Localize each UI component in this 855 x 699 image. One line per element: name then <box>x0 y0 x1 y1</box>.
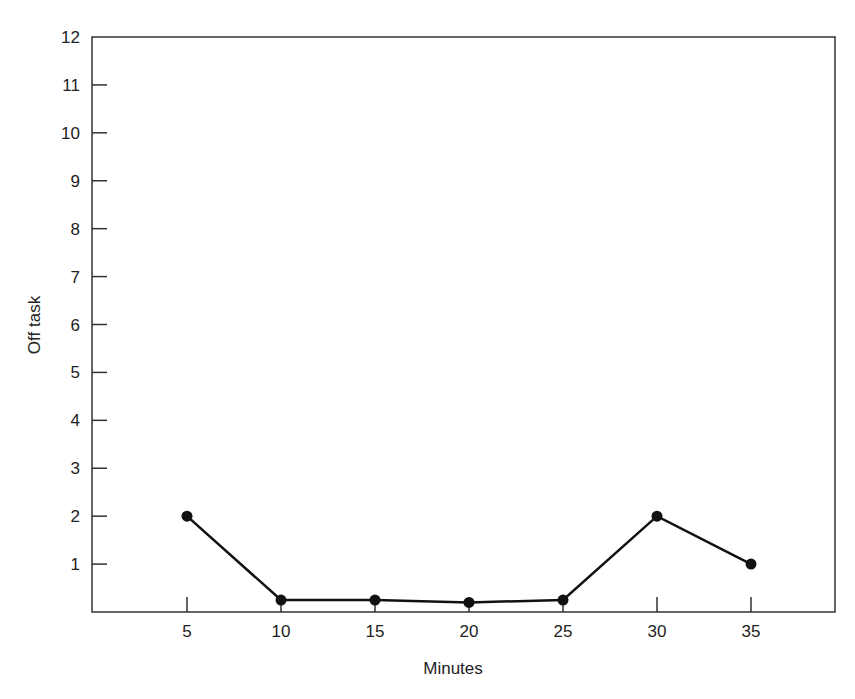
data-series-line <box>187 516 751 602</box>
y-tick-label: 2 <box>71 507 80 526</box>
y-tick-label: 8 <box>71 220 80 239</box>
data-point-marker <box>370 595 381 606</box>
x-tick-label: 35 <box>742 622 761 641</box>
y-axis-ticks: 123456789101112 <box>61 28 107 574</box>
data-point-marker <box>182 511 193 522</box>
x-tick-label: 30 <box>648 622 667 641</box>
data-point-marker <box>652 511 663 522</box>
y-tick-label: 6 <box>71 316 80 335</box>
line-chart: 123456789101112 5101520253035 Minutes Of… <box>0 0 855 699</box>
x-tick-label: 20 <box>460 622 479 641</box>
series-polyline <box>187 516 751 602</box>
plot-frame <box>92 37 835 612</box>
x-tick-label: 15 <box>366 622 385 641</box>
y-tick-label: 12 <box>61 28 80 47</box>
x-tick-label: 10 <box>272 622 291 641</box>
y-tick-label: 11 <box>62 76 80 95</box>
y-tick-label: 3 <box>71 459 80 478</box>
data-point-marker <box>464 597 475 608</box>
y-tick-label: 4 <box>71 411 80 430</box>
x-tick-label: 25 <box>554 622 573 641</box>
data-point-marker <box>558 595 569 606</box>
y-tick-label: 9 <box>71 172 80 191</box>
data-point-marker <box>746 559 757 570</box>
y-tick-label: 10 <box>61 124 80 143</box>
y-tick-label: 7 <box>71 268 80 287</box>
x-tick-label: 5 <box>182 622 191 641</box>
x-axis-title: Minutes <box>423 659 483 678</box>
y-tick-label: 5 <box>71 363 80 382</box>
y-tick-label: 1 <box>71 555 80 574</box>
y-axis-title: Off task <box>25 295 44 354</box>
data-point-markers <box>182 511 757 608</box>
data-point-marker <box>276 595 287 606</box>
